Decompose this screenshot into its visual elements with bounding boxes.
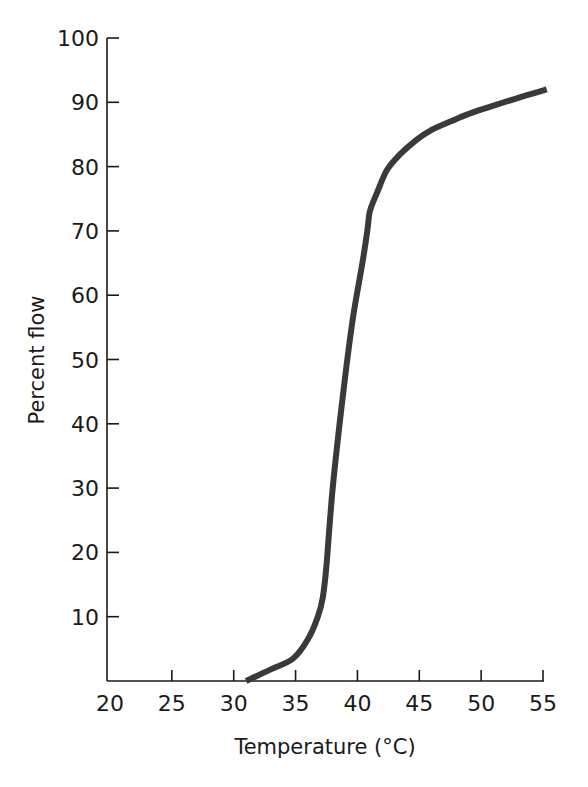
chart: 102030405060708090100 2025303540455055 T… [0,0,588,787]
y-tick-label: 80 [71,155,99,180]
x-tick-label: 20 [96,691,124,716]
y-tick-label: 50 [71,348,99,373]
x-axis-ticks: 2025303540455055 [96,670,557,716]
flow-curve [246,89,547,681]
y-axis-ticks: 102030405060708090100 [57,26,119,630]
y-tick-label: 60 [71,283,99,308]
x-tick-label: 50 [467,691,495,716]
x-tick-label: 55 [529,691,557,716]
x-tick-label: 30 [220,691,248,716]
y-tick-label: 10 [71,605,99,630]
y-tick-label: 40 [71,412,99,437]
y-tick-label: 90 [71,90,99,115]
x-axis-title: Temperature (°C) [233,735,415,759]
x-tick-label: 40 [343,691,371,716]
x-tick-label: 45 [405,691,433,716]
y-tick-label: 100 [57,26,99,51]
x-tick-label: 35 [282,691,310,716]
y-tick-label: 30 [71,476,99,501]
y-axis-title: Percent flow [25,296,49,425]
y-tick-label: 20 [71,540,99,565]
x-tick-label: 25 [158,691,186,716]
y-tick-label: 70 [71,219,99,244]
